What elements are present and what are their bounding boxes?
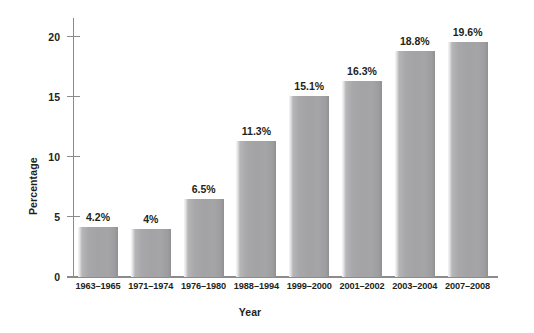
bar-value-label: 18.8% [400, 35, 430, 47]
x-axis-tick-label: 1976–1980 [181, 281, 226, 291]
x-axis-tick-label: 1963–1965 [75, 281, 120, 291]
bar-value-label: 4.2% [86, 211, 110, 223]
x-axis-title-label: Year [239, 306, 262, 318]
x-axis-tick-label: 2003–2004 [392, 281, 437, 291]
bar: 18.8% [395, 51, 435, 277]
bar: 6.5% [184, 199, 224, 277]
bar-rect [289, 96, 329, 277]
y-axis-tick-label: 0 [54, 271, 60, 283]
bar: 4.2% [78, 227, 118, 277]
bar-rect [78, 227, 118, 277]
x-axis-tick-label: 2007–2008 [445, 281, 490, 291]
x-axis-tick-label: 1988–1994 [234, 281, 279, 291]
y-axis-title: Percentage [27, 95, 41, 215]
y-axis-tick-label: 10 [48, 151, 60, 163]
x-axis-tick-label: 2001–2002 [339, 281, 384, 291]
bar-series: 4.2%4%6.5%11.3%15.1%16.3%18.8%19.6% [73, 18, 498, 277]
bar: 15.1% [289, 96, 329, 277]
bar-rect [448, 42, 488, 277]
bar-value-label: 11.3% [242, 125, 271, 137]
bar-rect [395, 51, 435, 277]
bar: 16.3% [342, 81, 382, 277]
y-axis-title-label: Percentage [27, 157, 39, 215]
x-axis-tick-label: 1999–2000 [287, 281, 332, 291]
x-axis-title: Year [0, 306, 534, 318]
y-axis-tick-label: 5 [54, 211, 60, 223]
bar: 11.3% [236, 141, 276, 277]
bar-value-label: 16.3% [347, 65, 377, 77]
bar: 19.6% [448, 42, 488, 277]
y-axis-tick-label: 15 [48, 91, 60, 103]
bar-rect [131, 229, 171, 277]
bar-value-label: 15.1% [294, 80, 324, 92]
bar-value-label: 19.6% [453, 26, 483, 38]
bar-value-label: 4% [143, 213, 158, 225]
bar-rect [184, 199, 224, 277]
bar-rect [236, 141, 276, 277]
x-axis-tick-label: 1971–1974 [128, 281, 173, 291]
plot-area: 05101520 4.2%4%6.5%11.3%15.1%16.3%18.8%1… [73, 18, 498, 277]
bar-value-label: 6.5% [192, 183, 216, 195]
bar-rect [342, 81, 382, 277]
bar-chart: Percentage 05101520 4.2%4%6.5%11.3%15.1%… [0, 0, 534, 333]
bar: 4% [131, 229, 171, 277]
y-axis-tick-label: 20 [48, 31, 60, 43]
